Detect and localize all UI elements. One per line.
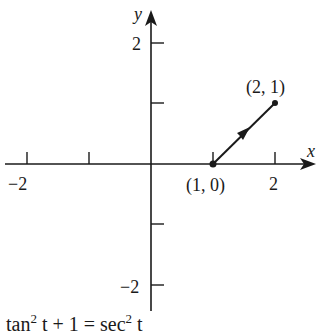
caption-lhs-rest: t + 1 = xyxy=(37,313,100,331)
caption-lhs-fn: tan xyxy=(6,313,30,331)
x-tick-label-neg2: −2 xyxy=(8,174,27,194)
start-point xyxy=(210,161,217,168)
y-tick-label-neg2: −2 xyxy=(120,277,139,297)
y-axis-label: y xyxy=(132,4,142,24)
y-tick-label-2: 2 xyxy=(132,34,141,54)
x-tick-label-2: 2 xyxy=(269,174,278,194)
end-point xyxy=(272,100,278,106)
coordinate-plane: −2 2 x 2 −2 y (1, 0) (2, 1) xyxy=(0,0,322,331)
start-point-label: (1, 0) xyxy=(186,175,225,196)
x-axis-label: x xyxy=(306,141,315,161)
caption-rhs-rest: t xyxy=(132,313,143,331)
x-axis: −2 2 x xyxy=(5,141,316,194)
caption-rhs-fn: sec xyxy=(100,313,126,331)
end-point-label: (2, 1) xyxy=(246,77,285,98)
y-axis: 2 −2 y xyxy=(120,4,164,311)
identity-caption: tan2 t + 1 = sec2 t xyxy=(6,311,143,331)
